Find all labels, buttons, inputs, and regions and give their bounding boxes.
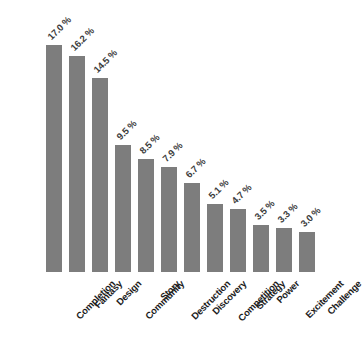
bar-value-label: 6.7 %: [183, 155, 207, 179]
bar: [115, 145, 131, 272]
bar-value-label: 7.9 %: [160, 139, 184, 163]
bar: [161, 167, 177, 272]
category-axis: CompletionFantasyDesignCommunityStoryDes…: [0, 272, 335, 350]
bar: [230, 209, 246, 272]
bar-value-label: 14.5 %: [91, 48, 119, 76]
bar: [253, 225, 269, 272]
bar-value-label: 3.5 %: [252, 198, 276, 222]
bar-value-label: 3.3 %: [275, 201, 299, 225]
bar: [46, 45, 62, 272]
plot-area: 17.0 %16.2 %14.5 %9.5 %8.5 %7.9 %6.7 %5.…: [0, 0, 335, 272]
bar: [207, 204, 223, 272]
bar: [138, 159, 154, 272]
bar-value-label: 17.0 %: [45, 14, 73, 42]
bar-value-label: 4.7 %: [229, 182, 253, 206]
bar: [184, 183, 200, 272]
bar: [276, 228, 292, 272]
bar-value-label: 3.0 %: [298, 205, 322, 229]
bar: [299, 232, 315, 272]
bar-value-label: 8.5 %: [137, 131, 161, 155]
bar: [92, 78, 108, 272]
bar-value-label: 16.2 %: [68, 25, 96, 53]
bar-value-label: 9.5 %: [114, 118, 138, 142]
bar: [69, 56, 85, 272]
bar-value-label: 5.1 %: [206, 177, 230, 201]
